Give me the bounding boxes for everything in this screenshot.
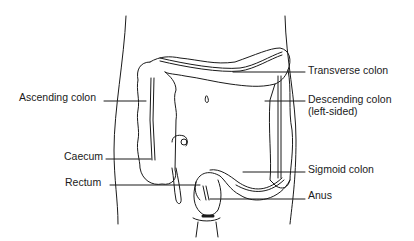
transverse-colon [150, 48, 290, 86]
label-anus: Anus [308, 190, 332, 201]
label-rectum: Rectum [65, 177, 101, 188]
appendix [172, 168, 181, 204]
body-outline-left [114, 16, 126, 224]
ascending-colon [137, 62, 176, 184]
colon-diagram: Ascending colon Transverse colon Descend… [0, 0, 414, 241]
label-descending-colon-note: (left-sided) [308, 106, 358, 117]
label-transverse-colon: Transverse colon [308, 65, 388, 76]
label-ascending-colon: Ascending colon [19, 92, 96, 103]
label-caecum: Caecum [64, 151, 103, 162]
label-sigmoid-colon: Sigmoid colon [308, 164, 374, 175]
pelvis-outline [193, 218, 220, 221]
label-descending-colon: Descending colon [308, 94, 391, 105]
colon-illustration [0, 0, 414, 241]
navel [205, 96, 208, 103]
